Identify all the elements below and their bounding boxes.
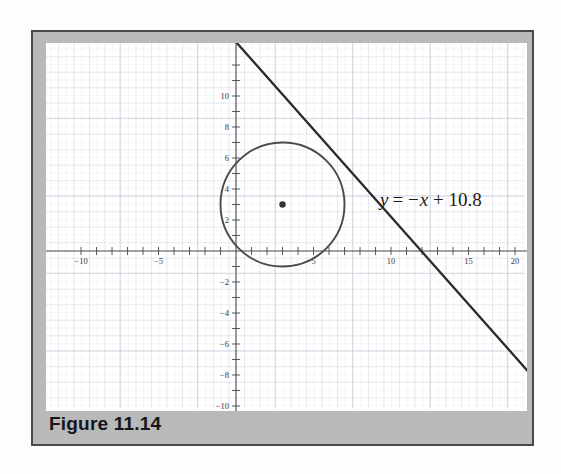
xtick-label-neg10: −10 [74,256,87,266]
ytick-label-neg8: −8 [220,370,229,380]
equation-label-x: x [419,189,429,210]
ytick-label-6: 6 [225,153,229,163]
coordinate-plot: −10 −5 5 10 15 20 2 4 6 8 10 −2 −4 −6 −8… [46,43,527,411]
ytick-label-neg4: −4 [220,308,230,318]
equation-label-y: y [378,189,389,210]
circle-center-point [279,201,285,207]
xtick-label-neg5: −5 [154,256,163,266]
xtick-label-20: 20 [511,256,520,266]
figure-page: −10 −5 5 10 15 20 2 4 6 8 10 −2 −4 −6 −8… [0,0,561,474]
equation-label-eq: = − [392,189,418,210]
xtick-label-10: 10 [387,256,396,266]
figure-block: −10 −5 5 10 15 20 2 4 6 8 10 −2 −4 −6 −8… [31,30,534,446]
plot-canvas: −10 −5 5 10 15 20 2 4 6 8 10 −2 −4 −6 −8… [46,43,527,411]
ytick-label-neg6: −6 [220,339,229,349]
equation-label-rest: + 10.8 [433,189,482,210]
ytick-label-8: 8 [225,122,229,132]
ytick-label-2: 2 [225,215,229,225]
figure-caption-text: Figure 11.14 [49,413,161,435]
ytick-label-10: 10 [221,91,230,101]
ytick-label-neg2: −2 [220,277,229,287]
xtick-label-15: 15 [464,256,473,266]
figure-caption-bar: Figure 11.14 [33,408,532,444]
